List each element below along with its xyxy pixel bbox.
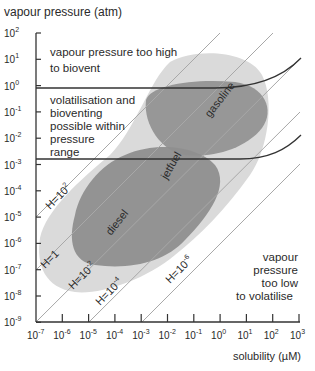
y-tick-label: 10-5	[4, 210, 21, 223]
region-mid-line2: bioventing	[50, 107, 102, 119]
diesel-region	[72, 147, 220, 266]
x-tick-label: 10-7	[27, 328, 44, 341]
x-tick-label: 101	[237, 328, 252, 341]
y-tick-label: 10-8	[4, 289, 21, 302]
x-tick-label: 10-1	[185, 328, 202, 341]
y-tick-label: 102	[4, 26, 19, 39]
x-tick-label: 100	[211, 328, 226, 341]
region-low-line2: pressure	[253, 264, 298, 276]
region-mid-line5: range	[50, 146, 79, 158]
y-tick-label: 10-2	[4, 131, 21, 144]
x-tick-label: 10-2	[159, 328, 176, 341]
x-tick-label: 10-3	[132, 328, 149, 341]
region-low-line1: vapour	[263, 251, 298, 263]
y-axis-title: vapour pressure (atm)	[4, 5, 122, 19]
y-tick-label: 10-9	[4, 315, 21, 328]
x-tick-label: 10-5	[80, 328, 97, 341]
x-tick-label: 103	[290, 328, 305, 341]
y-tick-label: 10-4	[4, 184, 21, 197]
chart: 10210110010-110-210-310-410-510-610-710-…	[0, 0, 315, 371]
region-low-line3: too low	[262, 277, 299, 289]
x-tick-label: 10-6	[53, 328, 70, 341]
region-mid-line4: pressure	[50, 133, 95, 145]
x-axis-title: solubility (µM)	[233, 350, 301, 362]
region-low-line4: to volatilise	[236, 290, 293, 302]
y-tick-label: 10-7	[4, 263, 21, 276]
x-tick-label: 102	[264, 328, 279, 341]
region-mid-line1: volatilisation and	[50, 94, 135, 106]
y-tick-label: 100	[4, 79, 19, 92]
region-high-line1: vapour pressure too high	[50, 46, 177, 58]
region-mid-line3: possible within	[50, 120, 125, 132]
y-tick-label: 101	[4, 52, 19, 65]
y-tick-label: 10-3	[4, 158, 21, 171]
x-tick-label: 10-4	[106, 328, 123, 341]
y-tick-label: 10-6	[4, 236, 21, 249]
y-tick-label: 10-1	[4, 105, 21, 118]
region-high-line2: to biovent	[50, 62, 101, 74]
